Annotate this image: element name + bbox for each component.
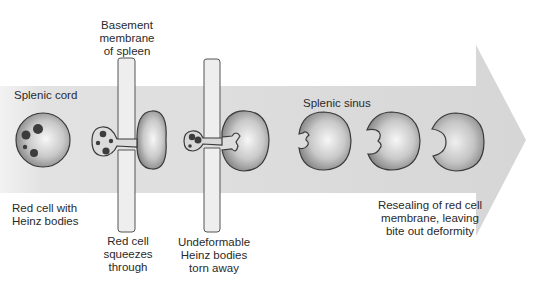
heinz-body xyxy=(22,131,31,140)
heinz-body xyxy=(33,124,43,134)
diagram-svg xyxy=(0,0,536,283)
heinz-torn-away-label: Undeformable Heinz bodies torn away xyxy=(174,236,254,275)
diagram-canvas: Basement membrane of spleen Splenic cord… xyxy=(0,0,536,283)
splenic-sinus-label: Splenic sinus xyxy=(303,97,371,110)
heinz-body xyxy=(96,141,100,145)
red-cell-heinz-label: Red cell with Heinz bodies xyxy=(12,202,78,228)
heinz-body xyxy=(30,149,38,157)
bitten-cell-1 xyxy=(299,112,351,170)
heinz-body xyxy=(100,131,107,138)
basement-membrane-label: Basement membrane of spleen xyxy=(96,19,158,58)
squeezes-through-label: Red cell squeezes through xyxy=(98,235,158,274)
heinz-body xyxy=(189,134,195,140)
resealing-label: Resealing of red cell membrane, leaving … xyxy=(370,199,490,238)
heinz-body xyxy=(109,139,113,143)
heinz-body xyxy=(102,147,109,154)
heinz-body xyxy=(188,144,192,148)
splenic-cord-label: Splenic cord xyxy=(14,89,77,102)
heinz-body xyxy=(195,137,202,144)
heinz-body xyxy=(23,145,27,149)
heinz-body-cell xyxy=(16,113,70,167)
